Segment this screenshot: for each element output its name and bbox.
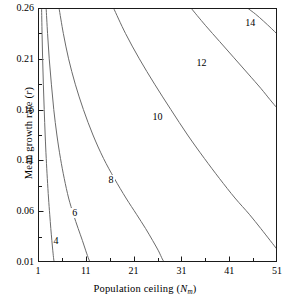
y-tick-label: 0.26 [2, 3, 34, 13]
x-axis-label: Population ceiling (Nm) [0, 283, 290, 296]
x-tick-label: 1 [25, 266, 51, 276]
contour-label-14: 14 [244, 18, 256, 28]
x-tick-label: 11 [73, 266, 99, 276]
contour-line-6 [46, 8, 90, 262]
y-axis-label-wrapper: Mean growth rate (r) [23, 43, 37, 223]
contour-line-8 [59, 8, 164, 262]
contour-label-8: 8 [108, 175, 115, 185]
contour-label-4: 4 [53, 236, 60, 246]
plot-frame [39, 9, 277, 262]
y-axis-label-variable: r [23, 91, 34, 95]
x-axis-tick-labels: 11121314151 [0, 266, 290, 280]
x-axis-label-paren: ) [193, 283, 197, 294]
contour-plot-figure: 0.010.060.110.160.210.26 468101214 11121… [0, 0, 290, 302]
contour-label-10: 10 [152, 112, 164, 122]
contour-label-12: 12 [196, 58, 208, 68]
x-axis-label-text: Population ceiling ( [93, 283, 180, 294]
y-axis-label-paren: ) [23, 87, 34, 91]
x-tick-label: 31 [168, 266, 194, 276]
x-tick-label: 51 [264, 266, 290, 276]
y-axis-label-text: Mean growth rate ( [23, 95, 34, 179]
contour-lines-group [42, 8, 277, 262]
contour-label-6: 6 [71, 208, 78, 218]
y-axis-label: Mean growth rate (r) [23, 43, 34, 223]
contour-line-10 [114, 8, 277, 249]
x-tick-label: 41 [216, 266, 242, 276]
plot-area: 468101214 [38, 8, 277, 262]
x-tick-label: 21 [121, 266, 147, 276]
